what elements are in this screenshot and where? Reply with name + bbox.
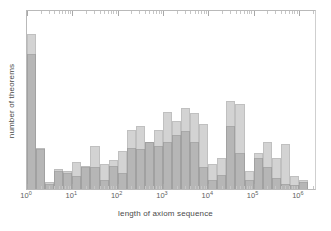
axis-tick [65,186,66,189]
histogram-bar [127,148,136,189]
axis-tick [72,11,73,16]
axis-tick [297,186,298,189]
axis-tick [94,186,95,189]
axis-tick [153,11,154,14]
axis-tick [281,186,282,189]
histogram-bar [226,126,235,189]
axis-tick [111,186,112,189]
axis-tick [41,186,42,189]
axis-tick [111,11,112,14]
axis-tick [285,11,286,14]
axis-tick [86,11,87,14]
axis-tick [206,186,207,189]
axis-tick [230,11,231,14]
axis-tick [159,186,160,189]
histogram-bars [27,11,315,189]
histogram-bar [27,54,36,189]
axis-tick [249,186,250,189]
axis-tick [68,186,69,189]
axis-tick [59,11,60,14]
axis-tick [247,11,248,14]
axis-tick [139,186,140,189]
x-tick-label: 102 [111,192,122,200]
axis-tick [72,184,73,189]
axis-tick [149,186,150,189]
axis-tick [62,11,63,14]
axis-tick [206,11,207,14]
axis-tick [108,11,109,14]
axis-tick [190,186,191,189]
histogram-bar [72,176,81,189]
axis-tick [104,11,105,14]
histogram-bar [208,180,217,189]
axis-tick [297,11,298,14]
axis-tick [27,11,28,16]
y-axis-title: number of theorems [6,11,18,191]
axis-tick [104,186,105,189]
axis-tick [41,11,42,14]
axis-tick [156,11,157,14]
axis-tick [27,184,28,189]
histogram-bar [154,146,163,189]
axis-tick [236,186,237,189]
axis-tick [292,186,293,189]
axis-tick [59,186,60,189]
axis-tick [244,11,245,14]
axis-tick [70,186,71,189]
axis-tick [244,186,245,189]
axis-tick [65,11,66,14]
histogram-bar [145,142,154,189]
x-tick-label: 104 [202,192,213,200]
axis-tick [299,184,300,189]
axis-tick [275,11,276,14]
axis-tick [201,186,202,189]
axis-tick [313,186,314,189]
axis-tick [94,11,95,14]
axis-tick [198,11,199,14]
axis-tick [185,186,186,189]
x-tick-label: 103 [156,192,167,200]
axis-tick [185,11,186,14]
axis-tick [68,11,69,14]
axis-tick [251,11,252,14]
axis-tick [149,11,150,14]
axis-tick [198,186,199,189]
axis-tick [249,11,250,14]
axis-tick [254,11,255,16]
axis-tick [222,11,223,14]
axis-tick [70,11,71,14]
axis-tick [236,11,237,14]
axis-tick [54,11,55,14]
axis-tick [240,186,241,189]
histogram-figure: 100101102103104105106 length of axiom se… [0,0,331,231]
histogram-bar [190,142,199,189]
axis-tick [163,11,164,16]
axis-tick [195,11,196,14]
axis-tick [118,11,119,16]
x-axis-title: length of axiom sequence [0,209,331,218]
axis-tick [86,186,87,189]
axis-tick [116,186,117,189]
axis-tick [145,186,146,189]
axis-tick [131,186,132,189]
axis-tick [139,11,140,14]
histogram-bar [281,144,290,189]
axis-tick [313,11,314,14]
axis-tick [222,186,223,189]
axis-tick [247,186,248,189]
axis-tick [208,184,209,189]
axis-tick [251,186,252,189]
axis-tick [177,11,178,14]
axis-tick [230,186,231,189]
x-tick-label: 101 [66,192,77,200]
axis-tick [54,186,55,189]
axis-tick [190,11,191,14]
axis-tick [118,184,119,189]
axis-tick [289,186,290,189]
axis-tick [299,11,300,16]
histogram-bar [299,182,308,189]
axis-tick [161,186,162,189]
axis-tick [161,11,162,14]
plot-area [26,10,316,190]
axis-tick [281,11,282,14]
